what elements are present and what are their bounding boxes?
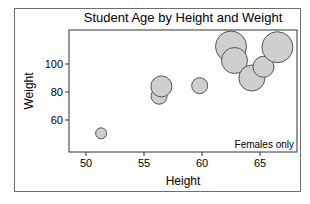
x-axis-label: Height [166, 174, 201, 188]
annotation-females-only: Females only [235, 139, 294, 150]
y-axis-label: Weight [22, 72, 36, 110]
x-tick-label: 50 [80, 157, 92, 169]
x-axis: 50556065 [80, 152, 266, 169]
y-axis: 6080100 [45, 58, 69, 126]
bubble-point [151, 76, 172, 97]
bubble-series [96, 31, 293, 139]
bubble-point [192, 78, 208, 94]
y-tick-label: 80 [51, 86, 63, 98]
bubble-chart: 50556065 6080100 Height Weight Females o… [0, 0, 310, 204]
x-tick-label: 60 [196, 157, 208, 169]
bubble-point [262, 32, 293, 63]
y-tick-label: 60 [51, 114, 63, 126]
x-tick-label: 55 [138, 157, 150, 169]
x-tick-label: 65 [254, 157, 266, 169]
y-tick-label: 100 [45, 58, 63, 70]
bubble-point [96, 128, 107, 139]
